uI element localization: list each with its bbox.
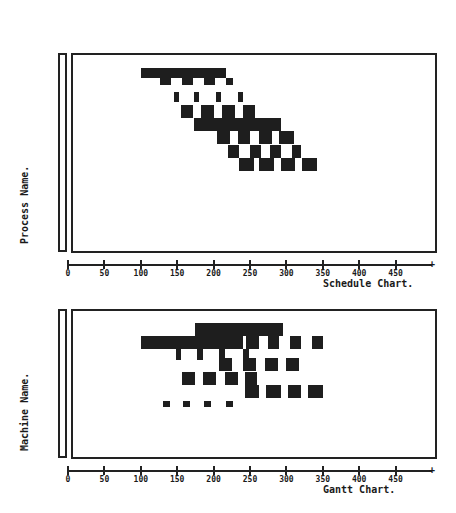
x-axis-tick-label: 150 [170, 475, 184, 484]
gantt-bar [226, 78, 233, 85]
gantt-bar [163, 401, 170, 407]
gantt-bar [259, 158, 274, 171]
gantt-bar [206, 68, 226, 78]
x-axis-tick [395, 260, 397, 269]
gantt-bar [228, 145, 239, 158]
gantt-bar [239, 158, 254, 171]
x-axis-tick-label: 200 [206, 269, 220, 278]
gantt-bar [270, 145, 281, 158]
x-axis-tick [176, 466, 178, 475]
x-axis-tick-label: 0 [66, 475, 71, 484]
x-axis-tick [67, 466, 69, 475]
x-axis-tick [322, 466, 324, 475]
x-axis-tick [322, 260, 324, 269]
gantt-bar [176, 349, 181, 360]
gantt-bar [279, 131, 294, 144]
x-axis-tick-label: 350 [316, 269, 330, 278]
x-axis-tick-label: 400 [352, 475, 366, 484]
gantt-bar [195, 323, 282, 336]
gantt-bar [259, 131, 272, 144]
gantt-bar [243, 358, 256, 371]
gantt-bar [266, 385, 281, 398]
process-name-axis-label: Process Name. [19, 166, 30, 244]
gantt-bar [160, 78, 171, 85]
gantt-bar [286, 358, 299, 371]
gantt-bar [183, 401, 190, 407]
x-axis-tick [285, 260, 287, 269]
gantt-bar [194, 118, 281, 131]
x-axis-tick-label: 150 [170, 269, 184, 278]
gantt-bar [219, 358, 232, 371]
x-axis-tick-label: 450 [388, 475, 402, 484]
x-axis-tick-label: 350 [316, 475, 330, 484]
machine-name-axis-label: Machine Name. [19, 373, 30, 451]
axis-arrow-icon: + [429, 465, 435, 475]
gantt-bar [204, 401, 211, 407]
x-axis-tick-label: 200 [206, 475, 220, 484]
gantt-bar [246, 336, 258, 349]
machine-name-column [58, 309, 67, 458]
x-axis-tick-label: 450 [388, 269, 402, 278]
gantt-bar [250, 145, 261, 158]
gantt-bar [203, 372, 216, 385]
x-axis-tick [103, 260, 105, 269]
x-axis-tick-label: 50 [100, 475, 110, 484]
gantt-bar [268, 336, 279, 349]
gantt-bar [201, 105, 213, 118]
x-axis-tick [67, 260, 69, 269]
x-axis-tick-label: 250 [243, 475, 257, 484]
axis-arrow-icon: + [429, 259, 435, 269]
gantt-bar [312, 336, 323, 349]
gantt-bar [243, 105, 255, 118]
x-axis-tick-label: 100 [134, 269, 148, 278]
gantt-bar [141, 68, 207, 78]
x-axis-tick [285, 466, 287, 475]
x-axis-tick-label: 400 [352, 269, 366, 278]
x-axis-tick-label: 100 [134, 475, 148, 484]
gantt-plot-area [71, 309, 437, 459]
gantt-bar [265, 358, 278, 371]
gantt-bar [197, 349, 203, 360]
x-axis-tick [249, 466, 251, 475]
gantt-bar [226, 401, 233, 407]
process-name-column [58, 53, 67, 252]
x-axis-tick-label: 50 [100, 269, 110, 278]
gantt-bar [182, 372, 195, 385]
gantt-bar [292, 145, 301, 158]
schedule-chart-caption: Schedule Chart. [323, 278, 413, 289]
gantt-bar [281, 158, 295, 171]
x-axis-tick [140, 466, 142, 475]
gantt-bar [222, 105, 235, 118]
x-axis-tick [358, 260, 360, 269]
x-axis-tick [140, 260, 142, 269]
x-axis-tick [249, 260, 251, 269]
x-axis-tick-label: 300 [279, 475, 293, 484]
gantt-bar [141, 336, 243, 349]
x-axis-tick [213, 466, 215, 475]
gantt-bar [302, 158, 317, 171]
gantt-bar [181, 105, 193, 118]
x-axis-tick [358, 466, 360, 475]
gantt-bar [290, 336, 301, 349]
gantt-bar [194, 92, 199, 102]
gantt-chart-caption: Gantt Chart. [323, 484, 395, 495]
x-axis-tick [176, 260, 178, 269]
gantt-bar [204, 78, 215, 85]
gantt-bar [245, 372, 257, 385]
gantt-bar [238, 131, 250, 144]
gantt-bar [238, 92, 243, 102]
schedule-plot-area [71, 53, 437, 253]
gantt-bar [217, 131, 229, 144]
gantt-bar [174, 92, 179, 102]
gantt-bar [245, 385, 259, 398]
x-axis-tick [395, 466, 397, 475]
gantt-bar [288, 385, 301, 398]
gantt-bar [225, 372, 238, 385]
gantt-bar [216, 92, 221, 102]
gantt-bar [308, 385, 323, 398]
x-axis-tick [103, 466, 105, 475]
x-axis-tick-label: 0 [66, 269, 71, 278]
x-axis-tick-label: 300 [279, 269, 293, 278]
x-axis-tick-label: 250 [243, 269, 257, 278]
x-axis-tick [213, 260, 215, 269]
